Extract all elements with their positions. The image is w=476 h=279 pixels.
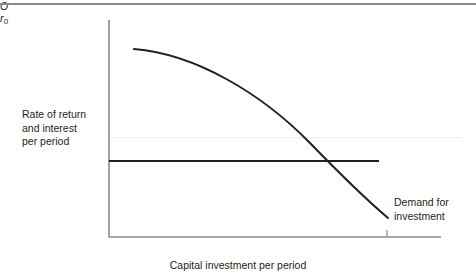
y-axis-label: Rate of return and interest per period	[22, 108, 86, 149]
x-axis-label: Capital investment per period	[0, 259, 476, 273]
demand-curve-annotation: Demand for investment	[394, 196, 449, 223]
figure-container: Rate of return and interest per period C…	[0, 0, 476, 279]
investment-demand-curve	[134, 49, 388, 218]
